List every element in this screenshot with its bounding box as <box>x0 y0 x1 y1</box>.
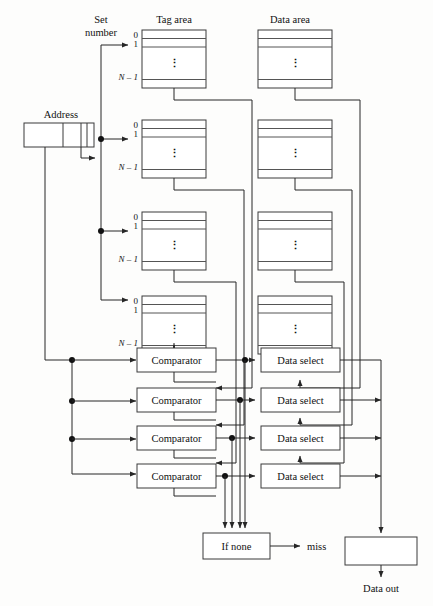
tag-row-index-last: N – 1 <box>117 72 138 82</box>
data-area-title: Data area <box>270 14 310 25</box>
address-register: Address <box>24 109 94 147</box>
tag-ellipsis: ⋮ <box>169 57 180 69</box>
data-ellipsis: ⋮ <box>290 323 301 335</box>
data-select-way-3[interactable]: Data select <box>261 464 340 488</box>
cache-diagram-figure: Set number Tag area Data area 0 1 N – 1 … <box>0 0 433 606</box>
comparator-way-2[interactable]: Comparator <box>137 426 216 450</box>
address-tag-bus <box>45 147 136 474</box>
comparator-label: Comparator <box>151 395 202 406</box>
comparator-label: Comparator <box>151 433 202 444</box>
tag-block-way-2: 0 1 N – 1 ⋮ <box>117 212 206 270</box>
comparator-way-0[interactable]: Comparator <box>137 348 216 372</box>
data-out-box[interactable] <box>345 537 417 565</box>
comparator-label: Comparator <box>151 471 202 482</box>
if-none-bus <box>225 360 245 528</box>
tag-row-index-1: 1 <box>134 39 139 49</box>
set-number-label-line2: number <box>85 27 118 38</box>
tag-block-way-3: 0 1 N – 1 ⋮ <box>117 296 206 354</box>
tag-ellipsis: ⋮ <box>169 323 180 335</box>
tag-block-way-0: 0 1 N – 1 ⋮ <box>117 30 206 88</box>
data-select-label: Data select <box>277 433 323 444</box>
diagram-canvas: Set number Tag area Data area 0 1 N – 1 … <box>0 0 433 606</box>
miss-label: miss <box>307 541 326 552</box>
data-block-way-0: ⋮ <box>258 30 332 88</box>
tag-row-index-last: N – 1 <box>117 338 138 348</box>
data-ellipsis: ⋮ <box>290 239 301 251</box>
set-number-label-line1: Set <box>94 14 108 25</box>
data-block-way-3: ⋮ <box>258 296 332 354</box>
comparator-way-1[interactable]: Comparator <box>137 388 216 412</box>
tag-row-index-last: N – 1 <box>117 254 138 264</box>
tag-block-way-1: 0 1 N – 1 ⋮ <box>117 120 206 178</box>
tag-row-index-1: 1 <box>134 305 139 315</box>
data-select-way-1[interactable]: Data select <box>261 388 340 412</box>
tag-row-index-1: 1 <box>134 129 139 139</box>
comparator-label: Comparator <box>151 355 202 366</box>
data-ellipsis: ⋮ <box>290 147 301 159</box>
data-select-label: Data select <box>277 471 323 482</box>
tag-row-index-last: N – 1 <box>117 162 138 172</box>
tag-area-title: Tag area <box>156 14 192 25</box>
tag-ellipsis: ⋮ <box>169 147 180 159</box>
data-out-label: Data out <box>363 583 399 594</box>
tag-row-index-1: 1 <box>134 221 139 231</box>
if-none-label: If none <box>221 541 251 552</box>
tag-ellipsis: ⋮ <box>169 239 180 251</box>
data-select-way-2[interactable]: Data select <box>261 426 340 450</box>
data-block-way-1: ⋮ <box>258 120 332 178</box>
data-select-label: Data select <box>277 395 323 406</box>
data-select-label: Data select <box>277 355 323 366</box>
data-ellipsis: ⋮ <box>290 57 301 69</box>
comparator-way-3[interactable]: Comparator <box>137 464 216 488</box>
address-label: Address <box>44 109 78 120</box>
data-select-way-0[interactable]: Data select <box>261 348 340 372</box>
data-block-way-2: ⋮ <box>258 212 332 270</box>
if-none-box[interactable]: If none <box>203 533 270 559</box>
